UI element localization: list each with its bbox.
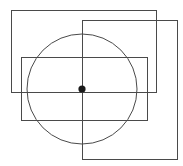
center-point-dot [78, 85, 85, 92]
figure-svg-root [0, 0, 183, 166]
geometric-figure-canvas [0, 0, 183, 166]
